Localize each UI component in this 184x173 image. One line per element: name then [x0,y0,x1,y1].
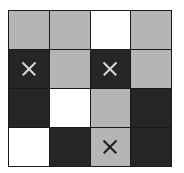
grid-cell-r2-c1[interactable] [50,89,90,127]
grid-cell-r1-c3[interactable] [131,50,171,88]
x-mark-icon [103,140,117,154]
grid-cell-r3-c3[interactable] [131,128,171,166]
grid-cell-r0-c0[interactable] [9,11,49,49]
grid-cell-r0-c1[interactable] [50,11,90,49]
grid-cell-r1-c1[interactable] [50,50,90,88]
grid-cell-r3-c0[interactable] [9,128,49,166]
grid-cell-r0-c3[interactable] [131,11,171,49]
grid-cell-r0-c2[interactable] [91,11,131,49]
grid-cell-r2-c0[interactable] [9,89,49,127]
x-mark-icon [22,62,36,76]
grid-cell-r1-c2[interactable] [91,50,131,88]
grid-cell-r1-c0[interactable] [9,50,49,88]
grid-cell-r2-c2[interactable] [91,89,131,127]
grid-cell-r2-c3[interactable] [131,89,171,127]
grid-cell-r3-c2[interactable] [91,128,131,166]
x-mark-icon [103,62,117,76]
grid-cell-r3-c1[interactable] [50,128,90,166]
grid-board [8,10,172,167]
